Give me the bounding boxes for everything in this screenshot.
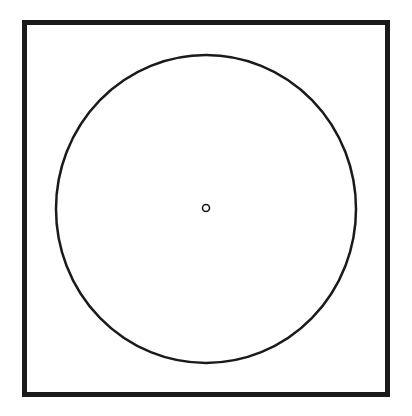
center-point [203, 205, 210, 212]
diagram-canvas [0, 0, 412, 416]
square-frame [25, 23, 388, 395]
outer-circle [56, 55, 356, 363]
